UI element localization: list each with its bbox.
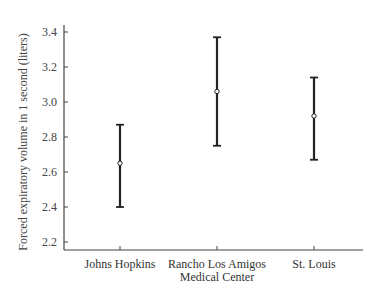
- x-axis-ticks: Johns HopkinsRancho Los AmigosMedical Ce…: [84, 246, 336, 284]
- mean-marker: [312, 114, 316, 118]
- y-tick-label: 3.0: [42, 95, 57, 109]
- error-bar: [310, 78, 318, 160]
- error-bar: [213, 37, 221, 146]
- y-tick-label: 2.4: [42, 200, 57, 214]
- error-bars: [116, 37, 318, 207]
- mean-marker: [215, 89, 219, 93]
- x-category-label: Medical Center: [180, 270, 254, 284]
- error-bar-chart: 2.22.42.62.83.03.23.4 Johns HopkinsRanch…: [0, 0, 379, 295]
- mean-marker: [118, 161, 122, 165]
- y-tick-label: 2.2: [42, 235, 57, 249]
- error-bar: [116, 125, 124, 207]
- x-category-label: Rancho Los Amigos: [168, 257, 266, 271]
- y-axis-title: Forced expiratory volume in 1 second (li…: [16, 33, 30, 250]
- axes: [64, 25, 363, 250]
- y-tick-label: 3.2: [42, 60, 57, 74]
- x-category-label: St. Louis: [292, 257, 336, 271]
- y-tick-label: 2.8: [42, 130, 57, 144]
- y-tick-label: 3.4: [42, 25, 57, 39]
- y-tick-label: 2.6: [42, 165, 57, 179]
- x-category-label: Johns Hopkins: [84, 257, 155, 271]
